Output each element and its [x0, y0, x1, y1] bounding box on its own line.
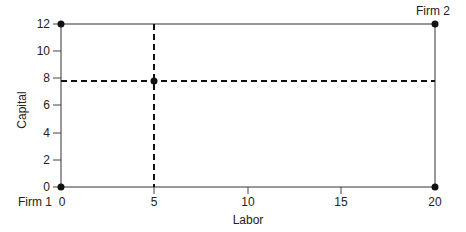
- y-tick-label: 2: [43, 153, 50, 167]
- corner-point: [432, 184, 439, 191]
- y-tick-label: 6: [43, 98, 50, 112]
- y-tick-label: 4: [43, 126, 50, 140]
- y-tick-label: 0: [43, 180, 50, 194]
- y-axis-title: Capital: [15, 91, 29, 128]
- corner-point: [432, 21, 439, 28]
- x-tick-label: 0: [59, 195, 66, 209]
- x-tick-label: 20: [428, 195, 442, 209]
- y-tick-label: 10: [37, 44, 51, 58]
- box-frame: [61, 24, 435, 187]
- corner-point: [58, 21, 65, 28]
- x-axis: [154, 187, 341, 194]
- firm2-label: Firm 2: [416, 4, 450, 18]
- x-tick-label: 5: [151, 195, 158, 209]
- y-tick-label: 8: [43, 71, 50, 85]
- allocation-point: [151, 78, 158, 85]
- x-axis-title: Labor: [233, 213, 264, 227]
- edgeworth-box-chart: 0 2 4 6 8 10 12 0 5 10 15 20 Labor Capit…: [0, 0, 466, 232]
- x-tick-label: 10: [241, 195, 255, 209]
- x-tick-label: 15: [334, 195, 348, 209]
- firm1-label: Firm 1: [18, 195, 52, 209]
- y-tick-label: 12: [37, 17, 51, 31]
- y-axis: [53, 24, 61, 187]
- corner-point: [58, 184, 65, 191]
